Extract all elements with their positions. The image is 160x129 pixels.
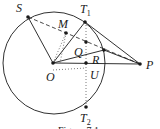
label-O: O <box>46 70 55 84</box>
point-T2 <box>84 105 88 109</box>
dotted-O-U <box>53 68 86 70</box>
label-T1: T1 <box>80 2 91 18</box>
label-U: U <box>90 68 100 82</box>
label-P: P <box>145 58 154 72</box>
geometry-diagram: S T1 M Q R O U P T2 Figure 7.1 <box>0 0 160 129</box>
segment-R-P <box>104 50 140 64</box>
dotted-O-M <box>53 33 66 63</box>
point-P <box>138 62 142 66</box>
label-M: M <box>57 17 69 31</box>
point-M <box>64 31 68 35</box>
label-Q: Q <box>74 45 83 59</box>
label-S: S <box>16 1 22 15</box>
point-R <box>102 48 106 52</box>
segment-O-S <box>28 17 53 63</box>
figure-caption: Figure 7.1 <box>58 125 99 129</box>
point-O <box>51 61 55 65</box>
label-R: R <box>91 53 100 67</box>
point-Q <box>84 40 88 44</box>
point-T1 <box>83 20 87 24</box>
secant-S-P <box>28 17 140 64</box>
point-U <box>84 61 88 65</box>
point-S <box>26 15 30 19</box>
